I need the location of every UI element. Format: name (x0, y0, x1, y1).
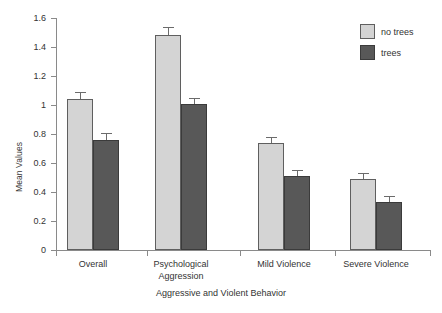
error-bar-line (80, 92, 81, 99)
y-axis-tick-label: 0.6 (12, 158, 46, 168)
x-axis-title: Aggressive and Violent Behavior (0, 288, 442, 298)
legend: no trees trees (360, 22, 414, 64)
y-axis-tick (51, 105, 57, 106)
error-bar-cap (163, 27, 174, 28)
legend-label-no-trees: no trees (381, 27, 414, 37)
x-axis-tick (240, 250, 241, 256)
y-axis-tick (51, 134, 57, 135)
x-axis-category-label: Overall (48, 259, 138, 271)
y-axis-tick-label: 0.4 (12, 187, 46, 197)
error-bar-cap (266, 137, 277, 138)
error-bar-cap (75, 92, 86, 93)
y-axis-tick-label: 1.2 (12, 71, 46, 81)
y-axis-tick (51, 192, 57, 193)
bar (181, 104, 207, 250)
legend-swatch-trees (360, 45, 375, 60)
legend-item: no trees (360, 22, 414, 41)
x-axis-category-label: Psychological Aggression (136, 259, 226, 282)
y-axis-tick (51, 221, 57, 222)
legend-swatch-no-trees (360, 24, 375, 39)
bar-chart: Mean Values 00.20.40.60.811.21.41.6 Over… (0, 0, 442, 313)
y-axis-tick-label: 0.2 (12, 216, 46, 226)
x-axis-category-label: Severe Violence (331, 259, 421, 271)
error-bar-cap (358, 173, 369, 174)
bar (67, 99, 93, 250)
y-axis-tick-label: 1.6 (12, 13, 46, 23)
bar (258, 143, 284, 250)
x-axis-tick (147, 250, 148, 256)
y-axis-tick (51, 47, 57, 48)
y-axis-tick-label: 1.4 (12, 42, 46, 52)
y-axis-tick (51, 76, 57, 77)
error-bar-cap (384, 196, 395, 197)
y-axis-tick-label: 0.8 (12, 129, 46, 139)
error-bar-line (106, 133, 107, 140)
x-axis-tick (430, 250, 431, 256)
y-axis-tick (51, 18, 57, 19)
x-axis-tick (335, 250, 336, 256)
x-axis-category-label: Mild Violence (239, 259, 329, 271)
bar (155, 35, 181, 250)
legend-item: trees (360, 43, 414, 62)
y-axis-tick-label: 0 (12, 245, 46, 255)
legend-label-trees: trees (381, 48, 401, 58)
y-axis-tick-label: 1 (12, 100, 46, 110)
bar (376, 202, 402, 250)
x-axis-tick (56, 250, 57, 256)
y-axis-tick (51, 163, 57, 164)
bar (93, 140, 119, 250)
error-bar-cap (101, 133, 112, 134)
bar (284, 176, 310, 250)
bar (350, 179, 376, 250)
error-bar-cap (292, 170, 303, 171)
x-axis-line (56, 250, 430, 251)
error-bar-cap (189, 98, 200, 99)
error-bar-line (168, 27, 169, 36)
